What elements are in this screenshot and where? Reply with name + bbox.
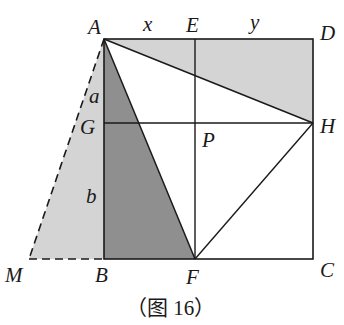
- label-G: G: [80, 115, 95, 139]
- label-E: E: [185, 13, 199, 37]
- label-P: P: [201, 128, 215, 152]
- label-D: D: [319, 21, 335, 45]
- label-H: H: [319, 114, 337, 138]
- label-M: M: [4, 263, 24, 287]
- geometry-diagram: A E D G P H M B F C x y a b （图 16）: [0, 0, 344, 325]
- label-b: b: [86, 184, 97, 208]
- label-F: F: [185, 265, 199, 289]
- label-A: A: [86, 15, 101, 39]
- figure-caption: （图 16）: [126, 296, 215, 320]
- label-a: a: [89, 84, 100, 108]
- label-y: y: [248, 10, 260, 34]
- label-x: x: [142, 12, 153, 36]
- label-B: B: [95, 263, 108, 287]
- label-C: C: [320, 258, 335, 282]
